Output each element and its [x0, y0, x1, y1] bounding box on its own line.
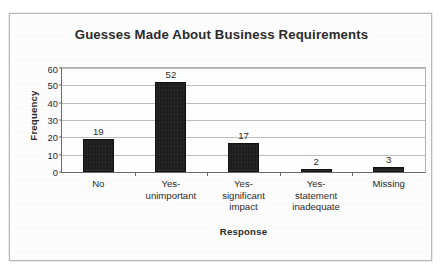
chart-title: Guesses Made About Business Requirements: [10, 27, 433, 42]
x-tick-mark: [207, 172, 208, 176]
y-tick-label: 20: [48, 132, 58, 143]
x-category-label: Yes-significantimpact: [204, 178, 282, 213]
bar[interactable]: [155, 82, 186, 172]
x-category-label-line: impact: [204, 201, 282, 213]
x-category-label: Yes-unimportant: [132, 178, 210, 201]
chart-category-slot: 52Yes-unimportant: [135, 68, 208, 172]
bar-value-label: 17: [238, 130, 249, 141]
x-category-label: Yes-statementinadequate: [277, 178, 355, 213]
bar[interactable]: [301, 169, 332, 172]
x-category-label-line: No: [59, 178, 137, 190]
bar-value-label: 2: [313, 156, 318, 167]
x-category-label-line: significant: [204, 190, 282, 202]
x-tick-mark: [135, 172, 136, 176]
y-tick-label: 10: [48, 149, 58, 160]
x-category-label-line: Yes-: [132, 178, 210, 190]
chart-category-slot: 19No: [62, 68, 135, 172]
bar[interactable]: [228, 143, 259, 172]
bar[interactable]: [373, 167, 404, 172]
chart-category-slot: 17Yes-significantimpact: [207, 68, 280, 172]
y-tick-label: 50: [48, 80, 58, 91]
x-category-label-line: unimportant: [132, 190, 210, 202]
x-category-label-line: Yes-: [277, 178, 355, 190]
bar-value-label: 52: [166, 69, 177, 80]
x-category-label: Missing: [350, 178, 428, 190]
y-tick-label: 60: [48, 63, 58, 74]
bar[interactable]: [83, 139, 114, 172]
y-gridline: [62, 172, 425, 173]
x-category-label-line: statement: [277, 190, 355, 202]
x-category-label: No: [59, 178, 137, 190]
x-category-label-line: inadequate: [277, 201, 355, 213]
bar-value-label: 3: [386, 154, 391, 165]
y-tick-label: 30: [48, 115, 58, 126]
y-tick-label: 40: [48, 97, 58, 108]
x-tick-mark: [280, 172, 281, 176]
bar-value-label: 19: [93, 126, 104, 137]
chart-figure-frame: Guesses Made About Business Requirements…: [9, 13, 432, 261]
chart-category-slot: 3Missing: [352, 68, 425, 172]
x-category-label-line: Missing: [350, 178, 428, 190]
x-category-label-line: Yes-: [204, 178, 282, 190]
y-tick-label: 0: [53, 167, 58, 178]
chart-category-slot: 2Yes-statementinadequate: [280, 68, 353, 172]
x-tick-mark: [352, 172, 353, 176]
y-axis-title: Frequency: [28, 71, 39, 161]
x-axis-title: Response: [61, 226, 426, 237]
plot-area: 010203040506019No52Yes-unimportant17Yes-…: [61, 67, 426, 173]
